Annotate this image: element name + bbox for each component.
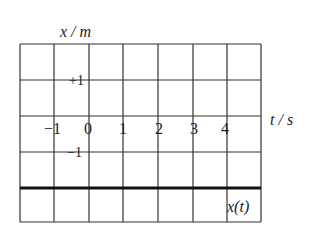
y-tick-plus-one: +1: [69, 74, 84, 88]
curve-label: x(t): [227, 199, 249, 215]
y-axis-label-text: x / m: [60, 23, 91, 40]
x-axis-label-text: t / s: [270, 111, 293, 128]
x-tick-3: 3: [190, 121, 198, 137]
x-tick-2: 2: [155, 121, 163, 137]
x-tick-neg1: −1: [44, 121, 61, 137]
x-tick-0: 0: [84, 121, 92, 137]
x-tick-1: 1: [119, 121, 127, 137]
x-tick-4: 4: [221, 121, 229, 137]
y-tick-minus-one: −1: [67, 146, 82, 160]
x-axis-label: t / s: [270, 112, 293, 128]
y-axis-label: x / m: [60, 24, 91, 40]
